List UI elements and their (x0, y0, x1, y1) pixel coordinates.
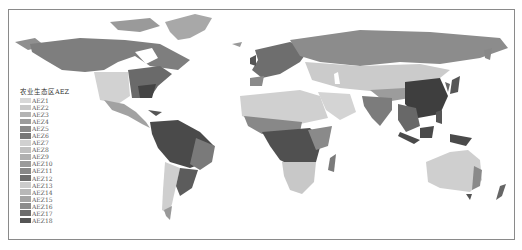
region-southern-africa (282, 162, 316, 194)
legend-item: AEZ15 (20, 196, 80, 203)
legend-label: AEZ16 (32, 203, 53, 210)
legend-swatch (20, 210, 31, 216)
region-new-zealand (496, 184, 506, 200)
region-uk (250, 55, 256, 66)
region-greenland (165, 14, 212, 40)
legend-label: AEZ10 (32, 160, 53, 167)
region-arctic-islands (110, 18, 160, 32)
legend-item: AEZ13 (20, 182, 80, 189)
region-korea (445, 82, 450, 92)
legend-swatch (20, 182, 31, 188)
legend-item: AEZ8 (20, 146, 80, 153)
legend-label: AEZ12 (32, 175, 53, 182)
region-india (362, 96, 392, 126)
legend-label: AEZ13 (32, 182, 53, 189)
legend-swatch (20, 196, 31, 202)
legend-item: AEZ11 (20, 167, 80, 174)
legend-swatch (20, 218, 31, 224)
legend-label: AEZ1 (32, 97, 49, 104)
legend-item: AEZ17 (20, 210, 80, 217)
region-canada (30, 38, 190, 72)
legend-swatch (20, 105, 31, 111)
region-caribbean (148, 110, 162, 116)
legend-swatch (20, 189, 31, 195)
region-tasmania (466, 194, 472, 200)
legend-swatch (20, 203, 31, 209)
legend-item: AEZ2 (20, 104, 80, 111)
legend-item: AEZ10 (20, 160, 80, 167)
region-philippines (436, 110, 442, 124)
region-pampas (176, 168, 198, 196)
legend-label: AEZ7 (32, 139, 49, 146)
legend-item: AEZ1 (20, 97, 80, 104)
region-usa-west (94, 72, 130, 104)
legend-swatch (20, 140, 31, 146)
legend-label: AEZ3 (32, 111, 49, 118)
legend-swatch (20, 147, 31, 153)
legend-label: AEZ4 (32, 118, 49, 125)
legend-swatch (20, 98, 31, 104)
legend-swatch (20, 133, 31, 139)
region-russia (290, 30, 508, 66)
region-japan (450, 76, 460, 94)
region-indonesia-2 (420, 126, 434, 138)
legend-swatch (20, 126, 31, 132)
legend-label: AEZ6 (32, 132, 49, 139)
legend-swatch (20, 154, 31, 160)
legend-swatch (20, 119, 31, 125)
legend-title: 农业生态区AEZ (20, 88, 80, 96)
legend-label: AEZ17 (32, 210, 53, 217)
legend-label: AEZ15 (32, 196, 53, 203)
legend-item: AEZ3 (20, 111, 80, 118)
legend-label: AEZ9 (32, 153, 49, 160)
legend-item: AEZ14 (20, 189, 80, 196)
legend-label: AEZ2 (32, 104, 49, 111)
legend-label: AEZ11 (32, 167, 53, 174)
region-kamchatka (484, 48, 492, 60)
legend-swatch (20, 161, 31, 167)
legend-item: AEZ18 (20, 217, 80, 224)
legend-label: AEZ5 (32, 125, 49, 132)
legend-label: AEZ18 (32, 217, 53, 224)
region-indonesia-1 (398, 132, 420, 144)
region-iberia (250, 76, 264, 86)
legend-item: AEZ6 (20, 132, 80, 139)
legend-swatch (20, 168, 31, 174)
region-iceland (232, 42, 242, 47)
legend-swatch (20, 112, 31, 118)
legend-label: AEZ14 (32, 189, 53, 196)
region-madagascar (328, 154, 336, 172)
legend-items: AEZ1AEZ2AEZ3AEZ4AEZ5AEZ6AEZ7AEZ8AEZ9AEZ1… (20, 97, 80, 224)
map-legend: 农业生态区AEZ AEZ1AEZ2AEZ3AEZ4AEZ5AEZ6AEZ7AEZ… (20, 88, 80, 224)
region-new-guinea (450, 134, 472, 146)
legend-label: AEZ8 (32, 146, 49, 153)
legend-swatch (20, 175, 31, 181)
region-mexico (104, 100, 150, 128)
legend-item: AEZ16 (20, 203, 80, 210)
legend-item: AEZ5 (20, 125, 80, 132)
legend-item: AEZ12 (20, 175, 80, 182)
legend-item: AEZ4 (20, 118, 80, 125)
legend-item: AEZ7 (20, 139, 80, 146)
region-usa-southeast (138, 84, 156, 98)
legend-item: AEZ9 (20, 153, 80, 160)
